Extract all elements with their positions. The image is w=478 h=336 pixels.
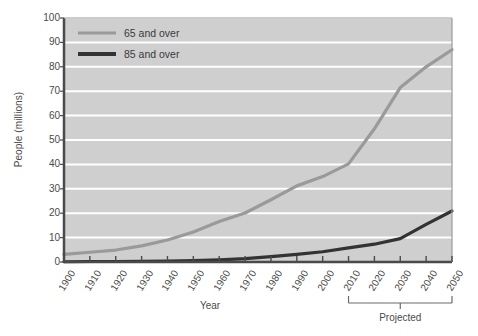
plot-canvas: 65 and over85 and over	[0, 0, 478, 336]
chart-figure: People (millions) 1009080706050403020100…	[0, 0, 478, 336]
legend-label-0: 65 and over	[124, 27, 180, 39]
legend-label-1: 85 and over	[124, 48, 180, 60]
projected-bracket	[349, 296, 452, 309]
